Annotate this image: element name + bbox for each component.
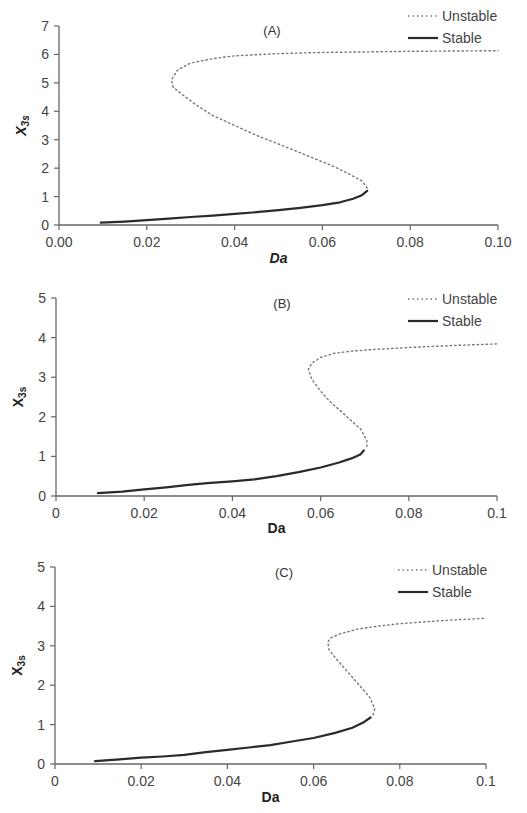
legend-stable-label: Stable xyxy=(432,584,472,600)
y-tick-label: 0 xyxy=(41,217,49,233)
y-tick-label: 4 xyxy=(41,103,49,119)
x-tick-label: 0.04 xyxy=(219,505,246,521)
x-tick-label: 0.06 xyxy=(309,234,336,250)
y-tick-label: 1 xyxy=(41,189,49,205)
y-tick-label: 2 xyxy=(37,677,45,693)
x-tick-label: 0.04 xyxy=(214,773,241,789)
y-tick-label: 6 xyxy=(41,46,49,62)
unstable-curve-c xyxy=(328,618,486,715)
panel-title-b: (B) xyxy=(273,296,290,311)
y-axis-title-b: X3s xyxy=(10,386,28,407)
y-axis-title-a: X3s xyxy=(13,115,31,137)
panel-title-c: (C) xyxy=(275,565,293,580)
unstable-curve-b xyxy=(308,344,497,447)
stable-curve-c xyxy=(95,718,370,762)
y-axis-title-c: X3s xyxy=(9,655,27,676)
x-tick-label: 0.02 xyxy=(131,505,158,521)
legend-b: UnstableStable xyxy=(408,291,497,329)
y-tick-label: 3 xyxy=(37,638,45,654)
legend-unstable-label: Unstable xyxy=(442,8,497,24)
y-tick-label: 3 xyxy=(38,369,46,385)
y-tick-label: 5 xyxy=(38,290,46,306)
stable-curve-a xyxy=(101,191,368,223)
y-tick-label: 2 xyxy=(38,409,46,425)
y-tick-label: 5 xyxy=(41,75,49,91)
x-tick-label: 0.06 xyxy=(307,505,334,521)
y-tick-label: 1 xyxy=(38,448,46,464)
y-tick-label: 0 xyxy=(37,756,45,772)
x-tick-label: 0.1 xyxy=(476,773,496,789)
y-tick-label: 0 xyxy=(38,488,46,504)
y-tick-label: 3 xyxy=(41,132,49,148)
y-tick-label: 4 xyxy=(38,330,46,346)
x-tick-label: 0.08 xyxy=(395,505,422,521)
legend-c: UnstableStable xyxy=(398,562,487,600)
chart-panel-a: 012345670.000.020.040.060.080.10DaX3s(A)… xyxy=(0,0,527,270)
x-tick-label: 0.06 xyxy=(300,773,327,789)
x-axis-title-a: Da xyxy=(270,250,288,266)
legend-a: UnstableStable xyxy=(408,8,497,46)
x-tick-label: 0.10 xyxy=(484,234,511,250)
x-tick-label: 0.08 xyxy=(397,234,424,250)
x-tick-label: 0.02 xyxy=(128,773,155,789)
legend-unstable-label: Unstable xyxy=(432,562,487,578)
y-tick-label: 1 xyxy=(37,717,45,733)
legend-stable-label: Stable xyxy=(442,30,482,46)
y-tick-label: 7 xyxy=(41,18,49,34)
stable-curve-b xyxy=(98,451,364,494)
x-tick-label: 0.08 xyxy=(386,773,413,789)
y-tick-label: 5 xyxy=(37,559,45,575)
x-tick-label: 0 xyxy=(51,773,59,789)
unstable-curve-a xyxy=(171,51,498,188)
x-axis-title-b: Da xyxy=(268,520,286,536)
y-tick-label: 2 xyxy=(41,160,49,176)
x-tick-label: 0.1 xyxy=(487,505,507,521)
x-tick-label: 0.02 xyxy=(133,234,160,250)
x-tick-label: 0.00 xyxy=(45,234,72,250)
x-axis-title-c: Da xyxy=(262,789,280,805)
legend-unstable-label: Unstable xyxy=(442,291,497,307)
x-tick-label: 0 xyxy=(52,505,60,521)
legend-stable-label: Stable xyxy=(442,313,482,329)
y-tick-label: 4 xyxy=(37,598,45,614)
chart-a-svg: 012345670.000.020.040.060.080.10DaX3s(A)… xyxy=(0,0,527,270)
x-tick-label: 0.04 xyxy=(221,234,248,250)
panel-title-a: (A) xyxy=(263,23,280,38)
